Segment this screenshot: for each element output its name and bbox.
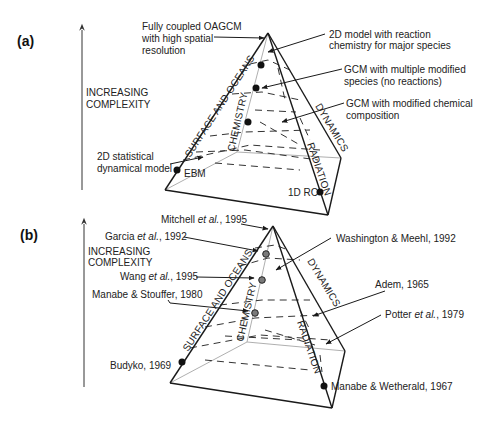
- climate-model-pyramid-figure: (a) INCREASING COMPLEXITY: [0, 0, 477, 430]
- label-washington-meehl: Washington & Meehl, 1992: [336, 233, 456, 244]
- label-2d-stat-line1: 2D statistical: [97, 151, 154, 162]
- pointer-potter: [326, 315, 381, 344]
- ref-point-manabe-wetherald: [321, 383, 328, 390]
- label-oagcm-line2: with high spatial: [141, 33, 213, 44]
- axis-label-line1: INCREASING: [86, 87, 148, 98]
- label-wang: Wang et al., 1995: [120, 271, 198, 282]
- ref-point-budyko: [179, 359, 186, 366]
- label-gcm-mod-line2: composition: [346, 110, 399, 121]
- label-2d-stat-line2: dynamical model: [97, 163, 172, 174]
- panel-label-b: (b): [20, 227, 38, 243]
- complexity-slices: [183, 60, 320, 170]
- pointer-garcia: [184, 237, 258, 251]
- label-adem: Adem, 1965: [375, 279, 429, 290]
- label-2d-chem-line2: chemistry for major species: [329, 40, 451, 51]
- label-potter: Potter et al., 1979: [385, 309, 464, 320]
- axis-label-b-line2: COMPLEXITY: [88, 257, 153, 268]
- label-gcm-multi-line1: GCM with multiple modified: [344, 64, 466, 75]
- model-point-gcm-modified: [245, 119, 252, 126]
- face-label-b-dynamics: DYNAMICS: [305, 256, 343, 308]
- pointer-mitchell: [241, 224, 268, 229]
- axis-label-b-line1: INCREASING: [88, 246, 150, 257]
- model-point-gcm-multi: [253, 85, 260, 92]
- label-garcia: Garcia et al., 1992: [105, 231, 187, 242]
- label-gcm-multi-line2: species (no reactions): [344, 76, 442, 87]
- pointer-gcm-multi: [262, 69, 342, 88]
- axis-label-line2: COMPLEXITY: [86, 99, 151, 110]
- label-1d-rc: 1D RC: [288, 187, 318, 198]
- pyramid-b-edges: [170, 226, 345, 408]
- ref-point-manabe-stouffer: [252, 310, 259, 317]
- label-oagcm-line1: Fully coupled OAGCM: [142, 21, 241, 32]
- label-manabe-wetherald: Manabe & Wetherald, 1967: [331, 381, 453, 392]
- panel-a: (a) INCREASING COMPLEXITY: [17, 21, 473, 215]
- pointer-2d-chem: [268, 34, 325, 52]
- label-mitchell: Mitchell et al., 1995: [161, 214, 248, 225]
- pointer-adem: [313, 291, 385, 316]
- label-budyko: Budyko, 1969: [110, 360, 172, 371]
- label-ebm: EBM: [184, 168, 206, 179]
- pointer-wang: [196, 277, 254, 278]
- model-point-2d-chem: [258, 62, 265, 69]
- ref-point-wang: [259, 277, 266, 284]
- label-gcm-mod-line1: GCM with modified chemical: [346, 98, 473, 109]
- pointer-washington-meehl: [276, 238, 331, 270]
- label-2d-chem-line1: 2D model with reaction: [329, 29, 431, 40]
- model-point-ebm: [174, 167, 181, 174]
- pointer-oagcm: [214, 37, 264, 38]
- label-manabe-stouffer: Manabe & Stouffer, 1980: [92, 289, 203, 300]
- label-oagcm-line3: resolution: [142, 45, 185, 56]
- panel-label-a: (a): [17, 33, 34, 49]
- panel-b: (b) INCREASING COMPLEXITY: [20, 214, 464, 408]
- ref-point-garcia: [263, 251, 270, 258]
